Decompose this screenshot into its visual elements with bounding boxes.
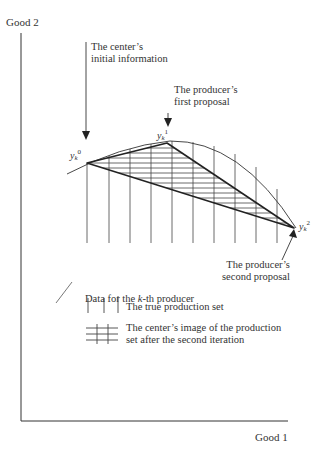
point-label-y2: yk2 <box>299 219 310 233</box>
annotation-second-proposal: The producer’s second proposal <box>216 259 290 283</box>
legend-center-image-label: The center’s image of the production set… <box>126 322 281 346</box>
point-label-y1: yk1 <box>157 128 168 142</box>
legend-center-image-symbol <box>86 324 118 344</box>
production-frontier-curve <box>67 141 296 228</box>
point-label-y0: yk0 <box>70 148 81 162</box>
arrow-second-proposal <box>282 229 297 260</box>
annotation-first-proposal: The producer’s first proposal <box>174 84 238 108</box>
legend-pointer-stroke <box>56 282 72 303</box>
annotation-center-initial: The center’s initial information <box>91 41 168 65</box>
legend-true-set-label: The true production set <box>126 301 224 313</box>
arrow-first-proposal <box>164 113 172 127</box>
y-axis-label: Good 2 <box>6 16 39 28</box>
arrow-center-initial <box>82 42 90 140</box>
x-axis-label: Good 1 <box>255 431 288 443</box>
diagram-canvas <box>0 0 328 452</box>
